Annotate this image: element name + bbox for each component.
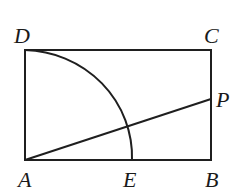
label-c: C bbox=[204, 23, 219, 48]
geometry-diagram: D C P A E B bbox=[0, 0, 249, 196]
arc-de bbox=[25, 50, 132, 160]
segment-ap bbox=[25, 99, 211, 160]
label-a: A bbox=[16, 167, 32, 192]
label-d: D bbox=[13, 23, 30, 48]
label-b: B bbox=[205, 167, 218, 192]
label-e: E bbox=[122, 167, 137, 192]
label-p: P bbox=[215, 87, 229, 112]
